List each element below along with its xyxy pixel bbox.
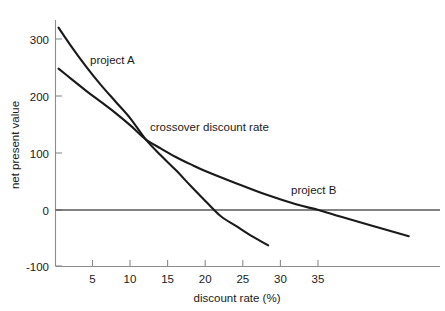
y-tick-label-minus-100: -100	[26, 261, 49, 273]
y-axis-title: net present value	[9, 101, 21, 189]
npv-crossover-chart: 300 200 100 0 -100 5 10 15 20 25 30 35 p…	[0, 0, 445, 311]
x-tick-marks	[93, 260, 319, 267]
x-tick-label-10: 10	[124, 273, 137, 285]
series-label-project-b: project B	[291, 184, 337, 196]
series-curve-project-b	[59, 69, 409, 237]
y-tick-label-300: 300	[30, 34, 49, 46]
x-tick-label-5: 5	[89, 273, 95, 285]
y-tick-label-0: 0	[43, 205, 49, 217]
y-tick-marks	[56, 39, 63, 266]
annotation-crossover-discount-rate: crossover discount rate	[150, 121, 269, 133]
x-tick-label-20: 20	[199, 273, 212, 285]
series-label-project-a: project A	[90, 54, 135, 66]
x-tick-label-25: 25	[236, 273, 249, 285]
x-tick-label-15: 15	[161, 273, 174, 285]
x-axis-title: discount rate (%)	[194, 292, 281, 304]
y-tick-label-200: 200	[30, 91, 49, 103]
x-tick-label-35: 35	[312, 273, 325, 285]
x-tick-label-30: 30	[274, 273, 287, 285]
y-tick-label-100: 100	[30, 148, 49, 160]
chart-figure: 300 200 100 0 -100 5 10 15 20 25 30 35 p…	[0, 0, 445, 311]
